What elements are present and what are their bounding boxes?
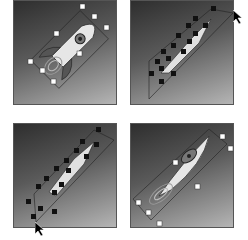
panel-step-4 [130,123,234,228]
rocket-illustration [14,1,117,105]
cursor-arrow-icon [35,222,45,236]
rocket-illustration-distorted [14,124,117,228]
panel-step-1 [13,0,117,105]
panel-step-3 [13,123,117,228]
cursor-arrow-icon [233,10,243,24]
rocket-illustration-distorted [131,1,234,105]
rocket-illustration-stretched [131,124,234,228]
bounding-box-handles [136,134,233,226]
anchor-points [149,6,216,84]
panel-step-2 [130,0,234,105]
